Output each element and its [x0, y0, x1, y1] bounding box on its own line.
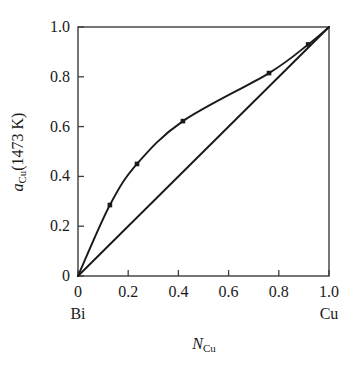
y-tick-label-3: 0.6 [28, 119, 70, 135]
x-axis-endpoint-label-left: Bi [70, 306, 85, 322]
y-axis-title-suffix: (1473 K) [9, 113, 26, 171]
series-ideal-line [78, 27, 329, 276]
y-tick-marks [78, 27, 84, 276]
y-axis-title: aCu(1473 K) [10, 113, 26, 192]
activity-chart-figure: 00.20.40.60.81.0 00.20.40.60.81.0 Bi Cu … [0, 0, 359, 368]
y-tick-label-5: 1.0 [28, 19, 70, 35]
data-point-marker [135, 162, 140, 167]
y-axis-title-subscript: Cu [16, 171, 28, 184]
x-axis-title-subscript: Cu [203, 342, 216, 354]
x-tick-label-1: 0.2 [118, 284, 138, 300]
data-point-marker [181, 119, 186, 124]
x-tick-label-5: 1.0 [319, 284, 339, 300]
ideal-line-path [78, 27, 329, 276]
x-tick-label-0: 0 [74, 284, 82, 300]
x-axis-title-symbol: N [192, 335, 203, 352]
data-point-marker [267, 71, 272, 76]
x-axis-endpoint-label-right: Cu [320, 306, 339, 322]
y-tick-label-2: 0.4 [28, 168, 70, 184]
x-tick-label-4: 0.8 [269, 284, 289, 300]
y-tick-label-4: 0.8 [28, 69, 70, 85]
y-tick-label-1: 0.2 [28, 218, 70, 234]
x-tick-marks [78, 270, 329, 276]
x-tick-label-3: 0.6 [219, 284, 239, 300]
x-tick-label-2: 0.4 [168, 284, 188, 300]
y-tick-label-0: 0 [28, 268, 70, 284]
y-axis-title-symbol: a [9, 183, 26, 191]
data-point-marker [108, 203, 113, 208]
x-axis-title: NCu [192, 336, 215, 352]
data-point-marker [306, 42, 311, 47]
